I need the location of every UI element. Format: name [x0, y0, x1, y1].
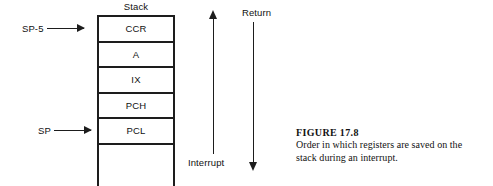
- stack-cell-label: IX: [131, 74, 140, 85]
- stack-cell-label: A: [133, 49, 140, 60]
- return-arrow-label: Return: [242, 7, 271, 18]
- stack-cell-ix: IX: [99, 68, 173, 94]
- stack-cell-pch: PCH: [99, 94, 173, 120]
- stack-cell-ccr: CCR: [99, 17, 173, 43]
- arrow-up-icon: [209, 10, 217, 19]
- stack-cell-label: CCR: [125, 23, 146, 34]
- figure-caption-line-1: Order in which registers are saved on th…: [296, 139, 488, 152]
- figure-caption: FIGURE 17.8 Order in which registers are…: [296, 126, 488, 164]
- interrupt-arrow-shaft: [213, 19, 214, 154]
- stack-cell-pcl: PCL: [99, 119, 173, 145]
- return-arrow-shaft: [253, 22, 254, 162]
- arrow-right-icon: [47, 28, 84, 29]
- figure-caption-title: FIGURE 17.8: [296, 126, 488, 139]
- stack-title: Stack: [97, 1, 175, 12]
- stack-cell-a: A: [99, 43, 173, 69]
- stack-pointer-sp: SP: [38, 124, 91, 136]
- stack-cell-label: PCL: [126, 125, 145, 136]
- stack-cell-label: PCH: [126, 100, 147, 111]
- stack-pointer-label: SP-5: [22, 23, 44, 34]
- stack-pointer-sp-minus-5: SP-5: [22, 22, 84, 34]
- interrupt-arrow-label: Interrupt: [188, 157, 224, 168]
- stack-pointer-label: SP: [38, 125, 51, 136]
- figure-17-8: Stack CCR A IX PCH PCL SP-5 SP Interrupt…: [0, 0, 493, 186]
- stack-box: CCR A IX PCH PCL: [97, 15, 175, 186]
- figure-caption-line-2: stack during an interrupt.: [296, 152, 488, 165]
- arrow-down-icon: [249, 162, 257, 171]
- arrow-right-icon: [54, 130, 91, 131]
